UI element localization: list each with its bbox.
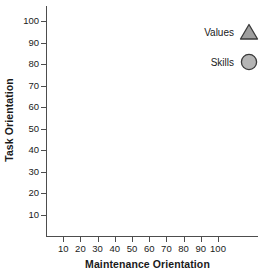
x-axis-title: Maintenance Orientation [45, 258, 250, 270]
x-tick-mark [166, 237, 167, 242]
y-tick-label: 40 [9, 145, 39, 155]
legend-entry-skills: Skills [211, 52, 259, 72]
y-tick-mark [41, 43, 46, 44]
x-tick-label: 100 [205, 244, 231, 254]
x-tick-mark [98, 237, 99, 242]
y-axis-title: Task Orientation [0, 0, 18, 240]
triangle-marker-icon [239, 22, 259, 42]
x-tick-mark [218, 237, 219, 242]
y-tick-mark [41, 150, 46, 151]
y-tick-label: 90 [9, 38, 39, 48]
y-tick-mark [41, 107, 46, 108]
legend-label-skills: Skills [211, 57, 234, 68]
legend-label-values: Values [204, 27, 234, 38]
y-tick-mark [41, 172, 46, 173]
y-tick-label: 20 [9, 188, 39, 198]
y-tick-label: 70 [9, 81, 39, 91]
y-tick-mark [41, 193, 46, 194]
y-tick-mark [41, 86, 46, 87]
y-tick-label: 50 [9, 124, 39, 134]
x-tick-mark [63, 237, 64, 242]
y-tick-mark [41, 215, 46, 216]
x-tick-mark [201, 237, 202, 242]
y-tick-label: 60 [9, 102, 39, 112]
legend-entry-values: Values [204, 22, 259, 42]
x-tick-mark [184, 237, 185, 242]
y-tick-label: 30 [9, 167, 39, 177]
y-tick-label: 10 [9, 210, 39, 220]
x-tick-mark [132, 237, 133, 242]
y-tick-mark [41, 21, 46, 22]
y-tick-mark [41, 64, 46, 65]
x-axis-line [46, 236, 258, 237]
scatter-chart: Task Orientation 102030405060708090100 1… [0, 0, 273, 277]
x-tick-mark [80, 237, 81, 242]
y-tick-label: 80 [9, 59, 39, 69]
x-tick-mark [149, 237, 150, 242]
x-tick-mark [115, 237, 116, 242]
circle-marker-icon [239, 52, 259, 72]
y-tick-mark [41, 129, 46, 130]
y-tick-label: 100 [9, 16, 39, 26]
